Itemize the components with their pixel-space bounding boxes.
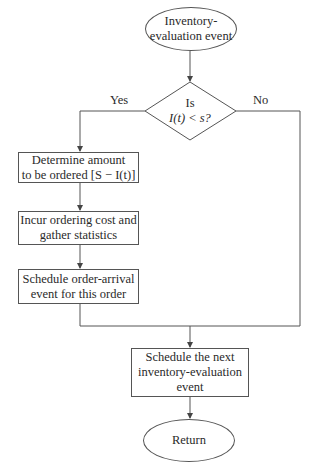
decision-line1: Is <box>185 96 194 111</box>
step4-line3: event <box>176 380 203 395</box>
step1-line1: Determine amount <box>32 153 125 168</box>
step3-line1: Schedule order-arrival <box>23 272 135 287</box>
incur-cost-step: Incur ordering cost and gather statistic… <box>18 211 139 245</box>
yes-branch-label: Yes <box>110 93 128 108</box>
determine-amount-step: Determine amount to be ordered [S − I(t)… <box>18 152 139 183</box>
schedule-order-arrival-step: Schedule order-arrival event for this or… <box>18 269 139 304</box>
step4-line2: inventory-evaluation <box>138 365 242 380</box>
start-event-line1: Inventory- <box>165 14 218 29</box>
start-event-node: Inventory- evaluation event <box>145 7 237 51</box>
step3-line2: event for this order <box>31 287 126 302</box>
no-branch-label: No <box>253 93 268 108</box>
decision-line2: I(t) < s? <box>169 111 211 126</box>
decision-text: Is I(t) < s? <box>150 94 230 128</box>
schedule-next-evaluation-step: Schedule the next inventory-evaluation e… <box>131 348 249 397</box>
step4-line1: Schedule the next <box>146 350 235 365</box>
return-node: Return <box>143 419 235 462</box>
step1-line2: to be ordered [S − I(t)] <box>22 168 136 183</box>
start-event-line2: evaluation event <box>150 29 232 44</box>
step2-line2: gather statistics <box>40 228 117 243</box>
step2-line1: Incur ordering cost and <box>20 213 136 228</box>
return-label: Return <box>172 433 206 448</box>
